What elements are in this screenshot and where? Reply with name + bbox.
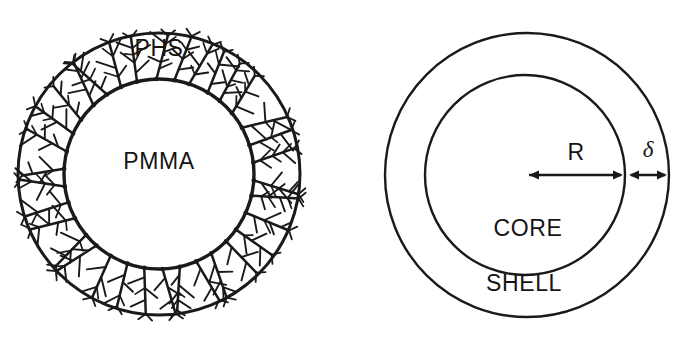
phs-hair-anchor [119,85,124,90]
phs-hair-segment [272,255,273,264]
phs-hair-anchor [249,193,254,198]
phs-hair-segment [79,256,80,276]
phs-hair-anchor [172,78,177,83]
phs-hair-anchor [194,259,199,264]
phs-hair-segment [70,251,71,263]
phs-hair-anchor [135,79,140,84]
figure-background [0,0,682,340]
phs-hair-anchor [62,166,67,171]
phs-hair-anchor [209,251,214,256]
radius-label: R [567,139,584,165]
phs-hair-anchor [84,233,89,238]
phs-hair-anchor [71,131,76,136]
core-label: CORE [494,215,563,241]
phs-hair-anchor [240,125,245,130]
phs-hair-segment [256,272,265,273]
phs-hair-anchor [94,243,99,248]
phs-hair-anchor [243,210,248,215]
phs-hair-anchor [105,92,110,97]
phs-hair-anchor [64,149,69,154]
pmma-label: PMMA [123,148,194,174]
phs-hair-anchor [108,253,113,258]
phs-hair-anchor [73,216,78,221]
phs-hair-segment [47,265,56,266]
phs-hair-segment [256,273,257,282]
phs-hair-anchor [234,227,239,232]
thickness-label: δ [643,137,654,162]
phs-hair-segment [223,287,224,301]
phs-hair-segment [254,67,255,76]
phs-hair-segment [66,221,67,231]
phs-hair-segment [240,63,249,64]
phs-hair-segment [264,103,265,122]
phs-hair-segment [61,81,62,94]
core-shell-particle-figure: PHS PMMA R δ CORE SHELL [0,0,682,340]
figure-canvas: PHS PMMA R δ CORE SHELL [0,0,682,340]
phs-hair-anchor [187,82,192,87]
phs-hair-segment [72,249,89,250]
phs-hair-anchor [178,264,183,269]
phs-hair-anchor [154,77,159,82]
phs-hair-segment [68,96,69,106]
phs-hair-anchor [63,184,68,189]
phs-hair-anchor [205,90,210,95]
phs-hair-segment [144,268,146,314]
phs-hair-anchor [125,261,130,266]
phs-hair-segment [47,270,56,271]
phs-hair-segment [260,247,261,266]
phs-hair-segment [52,106,53,119]
phs-hair-anchor [142,266,147,271]
phs-hair-anchor [251,178,256,183]
phs-hair-anchor [160,267,165,272]
phs-hair-anchor [230,111,235,116]
phs-hair-anchor [91,103,96,108]
phs-hair-segment [124,54,133,55]
phs-hair-anchor [224,239,229,244]
phs-hair-segment [64,63,73,64]
phs-hair-segment [236,70,249,71]
phs-label: PHS [134,35,183,61]
phs-hair-anchor [251,160,256,165]
phs-hair-anchor [217,99,222,104]
shell-label: SHELL [486,270,562,296]
phs-hair-anchor [79,117,84,122]
phs-hair-anchor [247,143,252,148]
phs-hair-anchor [66,200,71,205]
